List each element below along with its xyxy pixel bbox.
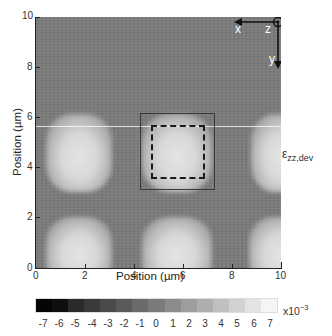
y-axis-label: Position (µm): [11, 102, 23, 182]
x-tick-label: 8: [229, 270, 235, 281]
colorbar-tick-label: -4: [84, 318, 100, 329]
strain-island: [142, 217, 212, 268]
colorbar-tick-label: -2: [116, 318, 132, 329]
colorbar-swatch: [213, 299, 229, 312]
colorbar-swatch: [181, 299, 197, 312]
colorbar-tick-label: 6: [246, 318, 262, 329]
colorbar-tick-label: -3: [100, 318, 116, 329]
x-tick: [134, 264, 135, 268]
multiplier-base: x10: [283, 305, 300, 317]
x-tick: [232, 264, 233, 268]
y-tick-label: 4: [27, 161, 33, 172]
epsilon-subscript: zz,dev: [287, 153, 313, 163]
colorbar-tick-label: 3: [197, 318, 213, 329]
y-tick: [36, 117, 40, 118]
multiplier-exponent: −3: [300, 303, 309, 312]
x-tick-label: 10: [275, 270, 286, 281]
y-axis-line: [35, 17, 36, 269]
colorbar-swatch: [36, 299, 52, 312]
colorbar-tick-label: 5: [229, 318, 245, 329]
colorbar-swatch: [68, 299, 84, 312]
colorbar-swatch: [116, 299, 132, 312]
y-tick-label: 0: [27, 262, 33, 273]
colorbar-tick-label: 2: [181, 318, 197, 329]
colorbar-swatch: [165, 299, 181, 312]
x-axis-label: Position (µm): [116, 270, 184, 282]
x-tick: [281, 262, 282, 268]
colorbar-tick-label: -5: [67, 318, 83, 329]
colorbar-swatch: [148, 299, 164, 312]
strain-island: [249, 217, 281, 268]
colorbar: [35, 298, 278, 313]
colorbar-swatch: [229, 299, 245, 312]
colorbar-tick-label: -6: [51, 318, 67, 329]
x-axis-line: [35, 268, 282, 269]
colorbar-tick-label: 4: [213, 318, 229, 329]
roi-dashed-rectangle: [151, 125, 205, 179]
colorbar-swatch: [197, 299, 213, 312]
y-tick-label: 10: [22, 10, 33, 21]
y-tick: [36, 217, 40, 218]
x-tick: [85, 264, 86, 268]
coord-y-label: y: [269, 52, 275, 66]
strain-map: x z y: [36, 17, 281, 268]
coord-x-label: x: [235, 22, 241, 36]
y-tick: [36, 17, 40, 18]
y-tick-label: 2: [27, 211, 33, 222]
coord-z-label: z: [265, 22, 271, 36]
colorbar-swatch: [245, 299, 261, 312]
x-tick-label: 0: [33, 270, 39, 281]
colorbar-tick-label: 7: [262, 318, 278, 329]
colorbar-tick-label: 0: [148, 318, 164, 329]
y-tick-label: 8: [27, 61, 33, 72]
colorbar-swatch: [261, 299, 277, 312]
colorbar-quantity-label: εzz,dev: [282, 147, 313, 163]
colorbar-multiplier: x10−3: [283, 303, 309, 317]
colorbar-swatch: [100, 299, 116, 312]
y-tick: [36, 167, 40, 168]
colorbar-swatch: [132, 299, 148, 312]
y-tick: [36, 67, 40, 68]
colorbar-swatch: [84, 299, 100, 312]
colorbar-tick-label: -1: [132, 318, 148, 329]
colorbar-swatch: [52, 299, 68, 312]
x-tick: [183, 264, 184, 268]
colorbar-tick-label: -7: [35, 318, 51, 329]
y-tick-label: 6: [27, 111, 33, 122]
colorbar-tick-label: 1: [165, 318, 181, 329]
strain-island: [46, 217, 112, 268]
x-tick-label: 2: [82, 270, 88, 281]
